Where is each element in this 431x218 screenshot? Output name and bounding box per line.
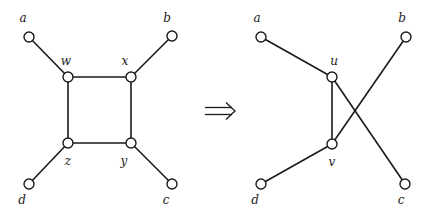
right-edge-v-b (332, 37, 406, 144)
left-edge-z-d (29, 143, 68, 184)
graph-diagram: abwxzydc abuvdc (0, 0, 431, 218)
left-node-c (167, 179, 177, 189)
left-node-label-d: d (18, 193, 26, 207)
left-node-label-z: z (64, 154, 72, 168)
left-graph: abwxzydc (18, 11, 177, 207)
right-node-label-v: v (329, 155, 336, 169)
right-edge-v-d (261, 144, 332, 184)
left-node-label-b: b (163, 11, 171, 25)
right-node-c (400, 179, 410, 189)
right-edge-u-c (332, 77, 405, 184)
left-node-y (126, 138, 136, 148)
left-graph-edges (29, 36, 172, 184)
right-node-label-a: a (253, 11, 260, 25)
left-node-label-x: x (122, 54, 129, 68)
left-node-label-w: w (61, 54, 72, 68)
left-graph-nodes: abwxzydc (18, 11, 177, 207)
left-node-label-a: a (19, 11, 26, 25)
left-node-label-c: c (163, 193, 170, 207)
left-node-b (167, 31, 177, 41)
right-node-b (401, 32, 411, 42)
right-node-u (327, 72, 337, 82)
right-node-label-b: b (398, 11, 406, 25)
left-node-label-y: y (120, 154, 128, 168)
left-node-d (24, 179, 34, 189)
right-graph: abuvdc (251, 11, 411, 207)
left-node-a (24, 32, 34, 42)
right-node-v (327, 139, 337, 149)
right-node-label-c: c (398, 193, 405, 207)
implies-arrow-icon (205, 103, 235, 120)
right-graph-nodes: abuvdc (251, 11, 411, 207)
right-node-label-u: u (330, 54, 338, 68)
left-node-z (63, 138, 73, 148)
right-edge-a-u (261, 37, 332, 77)
right-node-label-d: d (251, 193, 259, 207)
left-edge-b-x (131, 36, 172, 77)
left-node-w (63, 72, 73, 82)
left-edge-y-c (131, 143, 172, 184)
right-node-d (256, 179, 266, 189)
right-node-a (256, 32, 266, 42)
left-node-x (126, 72, 136, 82)
